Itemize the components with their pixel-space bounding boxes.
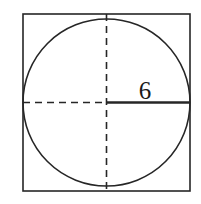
geometry-figure: 6 — [0, 0, 201, 204]
figure-canvas: 6 — [0, 0, 201, 204]
radius-length-label: 6 — [139, 77, 152, 104]
